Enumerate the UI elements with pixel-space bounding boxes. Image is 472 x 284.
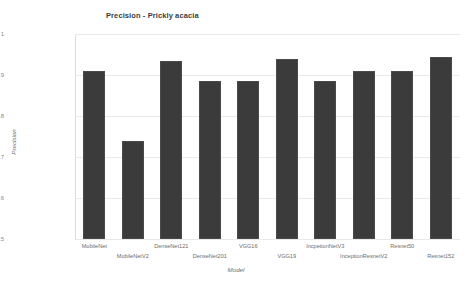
x-axis-tick-label: Resnet50 [390, 243, 414, 249]
x-axis-tick-label: Resnet152 [427, 253, 454, 259]
bar [276, 59, 298, 239]
bar [314, 81, 336, 239]
bar-chart: Precision - Prickly acacia 0.50.60.70.80… [0, 0, 472, 284]
bar [391, 71, 413, 239]
y-axis-tick-label: 1 [1, 31, 4, 37]
bar [199, 81, 221, 239]
plot-area [75, 34, 460, 239]
x-axis-tick-label: DenseNet121 [154, 243, 188, 249]
bar [83, 71, 105, 239]
x-axis-title: Model [0, 266, 472, 273]
bar [430, 57, 452, 239]
x-axis-tick-label: IncpetionNetV3 [306, 243, 344, 249]
y-axis-tick-label: 0.5 [0, 236, 4, 242]
bar [122, 141, 144, 239]
x-axis-tick-label: MobileNet [82, 243, 107, 249]
y-axis-tick-label: 0.7 [0, 154, 4, 160]
y-axis-tick-label: 0.9 [0, 72, 4, 78]
x-axis-tick-label: InceptionResnetV2 [340, 253, 387, 259]
x-axis-tick-label: VGG16 [239, 243, 258, 249]
gridline [75, 34, 460, 35]
x-axis-tick-label: DenseNet201 [193, 253, 227, 259]
bar [353, 71, 375, 239]
y-axis-tick-label: 0.8 [0, 113, 4, 119]
x-axis-tick-label: VGG19 [277, 253, 296, 259]
chart-title: Precision - Prickly acacia [106, 11, 199, 20]
y-axis-tick-label: 0.6 [0, 195, 4, 201]
x-axis-tick-label: MobileNetV2 [117, 253, 149, 259]
gridline [75, 239, 460, 240]
bar [160, 61, 182, 239]
y-axis-title: Precision [10, 129, 17, 154]
bar [237, 81, 259, 239]
